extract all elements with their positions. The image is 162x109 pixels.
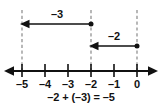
jump-minus-two-origin-dot xyxy=(135,44,140,49)
number-line-axis xyxy=(4,66,158,75)
tick-label-minus-1: –1 xyxy=(104,78,124,90)
tick-label-minus-4: –4 xyxy=(35,78,55,90)
jump-minus-two-arrowhead xyxy=(89,42,99,50)
jump-minus-three-arrowhead xyxy=(20,20,30,28)
axis-left-arrowhead xyxy=(4,66,14,75)
equation-caption: –2 + (–3) = –5 xyxy=(0,91,162,103)
jump-minus-three-origin-dot xyxy=(89,22,94,27)
jump-minus-two-arrow xyxy=(89,42,140,50)
tick-label-minus-5: –5 xyxy=(12,78,32,90)
axis-right-arrowhead xyxy=(148,66,158,75)
tick-label-minus-3: –3 xyxy=(58,78,78,90)
number-line-figure: –5 –4 –3 –2 –1 0 –3 –2 –2 + (–3) = –5 xyxy=(0,0,162,109)
jump-label-minus-three: –3 xyxy=(44,8,70,20)
jump-minus-three-arrow xyxy=(20,20,94,28)
tick-label-minus-2: –2 xyxy=(81,78,101,90)
jump-label-minus-two: –2 xyxy=(101,30,127,42)
tick-label-zero: 0 xyxy=(127,78,147,90)
